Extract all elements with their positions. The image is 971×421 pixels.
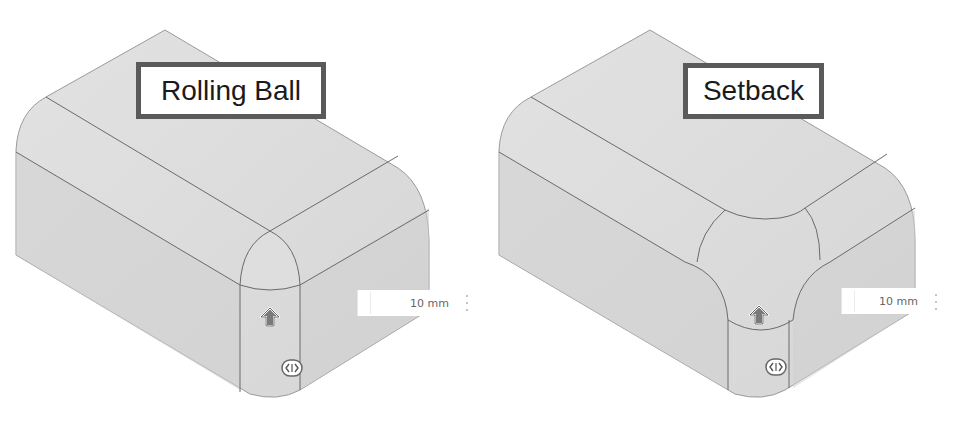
- up-arrow-icon[interactable]: [747, 303, 771, 327]
- fillet-radius-value: 10 mm: [879, 295, 918, 308]
- fillet-type-label: Rolling Ball: [136, 62, 326, 119]
- fillet-radius-value: 10 mm: [410, 297, 449, 310]
- fillet-radius-input[interactable]: 10 mm: [357, 290, 453, 316]
- rolling-ball-panel: Rolling Ball 10 mm: [0, 0, 485, 421]
- fillet-type-label: Setback: [683, 63, 824, 119]
- horizontal-drag-icon[interactable]: [765, 358, 787, 376]
- up-arrow-icon[interactable]: [258, 305, 282, 329]
- fillet-type-label-text: Setback: [703, 75, 804, 107]
- vertical-dots-icon[interactable]: [465, 295, 469, 311]
- fillet-type-label-text: Rolling Ball: [161, 75, 301, 107]
- horizontal-drag-icon[interactable]: [281, 359, 303, 377]
- setback-panel: Setback 10 mm: [485, 0, 971, 421]
- vertical-dots-icon[interactable]: [934, 294, 938, 310]
- fillet-radius-input[interactable]: 10 mm: [841, 288, 922, 314]
